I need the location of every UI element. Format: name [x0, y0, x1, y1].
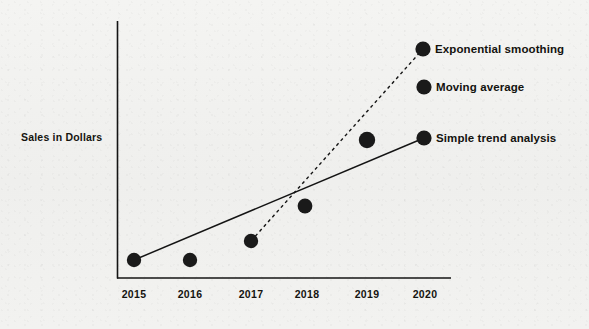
data-point-2015: [127, 253, 141, 267]
data-point-2019: [359, 132, 375, 148]
data-point-2018: [298, 199, 313, 214]
legend-marker-exponential-smoothing: [415, 41, 430, 56]
x-tick-label-2015: 2015: [122, 288, 147, 300]
data-point-2017: [244, 234, 258, 248]
x-tick-label-2018: 2018: [295, 288, 320, 300]
legend-label-exponential-smoothing: Exponential smoothing: [435, 43, 564, 55]
x-tick-label-2019: 2019: [355, 288, 380, 300]
legend-label-moving-average: Moving average: [436, 81, 524, 93]
chart-page: Sales in Dollars 2015 2016 2017 2018 201…: [0, 0, 589, 329]
legend-marker-simple-trend-analysis: [416, 130, 431, 145]
x-tick-label-2020: 2020: [413, 288, 438, 300]
legend-label-simple-trend-analysis: Simple trend analysis: [436, 132, 556, 144]
x-tick-label-2017: 2017: [239, 288, 264, 300]
x-tick-label-2016: 2016: [178, 288, 203, 300]
data-point-2016: [183, 253, 197, 267]
series-line-exponential-smoothing: [251, 49, 423, 241]
legend-marker-moving-average: [416, 79, 431, 94]
y-axis-title: Sales in Dollars: [21, 131, 102, 143]
series-line-simple-trend-analysis: [134, 138, 424, 260]
